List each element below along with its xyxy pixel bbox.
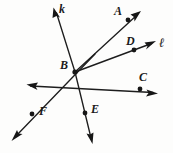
label-point-f: F (39, 105, 47, 117)
label-point-d: D (126, 35, 135, 47)
label-line-k: k (59, 3, 65, 15)
point-dot-e (83, 111, 88, 116)
point-dot-f (30, 112, 35, 117)
point-dot-c (138, 87, 143, 92)
vertex-dot-b (72, 69, 77, 74)
label-line-l: ℓ (159, 36, 165, 49)
point-dot-d (132, 48, 137, 53)
label-point-c: C (139, 71, 147, 83)
line-through-f (16, 54, 95, 136)
point-dot-a (126, 18, 131, 23)
label-point-b: B (60, 59, 68, 71)
label-point-a: A (114, 5, 122, 17)
geometry-diagram: B A D C E F k ℓ (0, 0, 173, 153)
ray-l-bd (75, 44, 152, 73)
diagram-canvas (0, 0, 173, 153)
label-point-e: E (91, 103, 99, 115)
line-through-c (31, 86, 154, 93)
arrowhead-c-right (146, 90, 158, 97)
ray-be (75, 72, 91, 138)
